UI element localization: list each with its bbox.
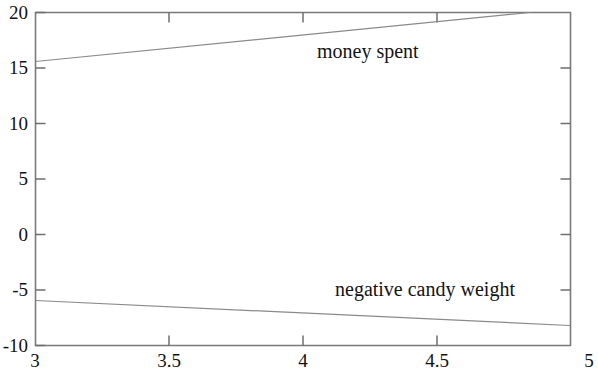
x-tick-label-3: 3 [21,351,49,370]
series-annotation-money-spent: money spent [317,41,419,61]
x-tick-label-4: 4 [289,351,317,370]
y-tick-label-20: 20 [0,3,28,22]
x-tick-label-5: 5 [575,351,598,370]
y-tick-label-0: 0 [0,225,28,244]
series-money-spent [36,13,531,62]
series-negative-candy-weight [36,301,571,326]
x-axis-ticks-top [169,13,437,23]
line-money-spent [36,13,531,62]
y-tick-label-5: 5 [0,169,28,188]
x-axis-ticks [169,336,437,346]
y-tick-label--5: -5 [0,280,28,299]
y-tick-label-15: 15 [0,58,28,77]
series-annotation-negative-candy-weight: negative candy weight [335,279,515,299]
y-axis-ticks [36,13,46,346]
line-negative-candy-weight [36,301,571,326]
x-tick-label-4.5: 4.5 [416,351,458,370]
y-tick-label-10: 10 [0,114,28,133]
y-axis-ticks-right [561,68,571,290]
x-tick-label-3.5: 3.5 [148,351,190,370]
